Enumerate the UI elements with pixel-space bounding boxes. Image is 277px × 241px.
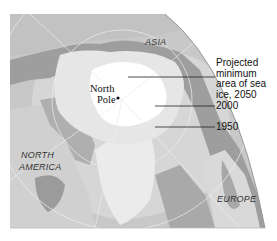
legend-2000: 2000 xyxy=(216,101,238,112)
label-north-america-2: AMERICA xyxy=(19,162,61,173)
legend-1950: 1950 xyxy=(216,122,238,133)
legend-2050-line3: area of sea xyxy=(216,79,266,90)
label-asia: ASIA xyxy=(145,37,166,48)
label-europe: EUROPE xyxy=(217,194,256,205)
legend-2050-line4: ice, 2050 xyxy=(216,90,257,101)
label-north-pole-1: North xyxy=(90,83,115,94)
label-north-pole-2: Pole xyxy=(97,94,116,105)
label-north-america-1: NORTH xyxy=(21,150,54,161)
north-pole-dot xyxy=(116,96,119,99)
legend-2050-line1: Projected xyxy=(216,58,258,69)
